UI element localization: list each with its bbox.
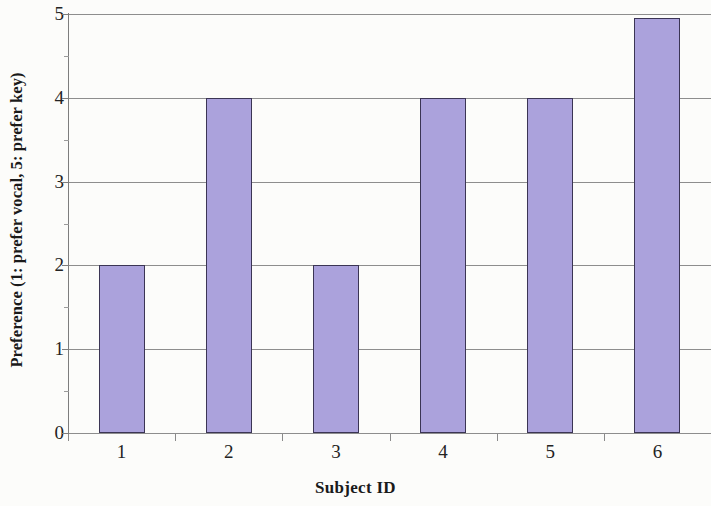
gridline-1 (68, 349, 711, 350)
y-axis-tick-mark (62, 265, 69, 266)
y-axis-tick-label: 4 (38, 87, 64, 109)
bar-subject-3 (313, 265, 359, 433)
gridline-4 (68, 98, 711, 99)
x-axis-tick-label: 6 (627, 441, 687, 463)
x-axis-tick-mark (497, 434, 498, 441)
gridline-2 (68, 265, 711, 266)
x-axis-tick-label: 2 (199, 441, 259, 463)
y-axis-tick-label: 2 (38, 254, 64, 276)
y-axis-tick-label: 5 (38, 3, 64, 25)
y-axis-tick-mark (62, 182, 69, 183)
y-axis-minor-tick-mark (64, 140, 69, 141)
x-axis-tick-label: 1 (92, 441, 152, 463)
y-axis-title: Preference (1: prefer vocal, 5: prefer k… (7, 72, 27, 367)
x-axis-tick-label: 3 (306, 441, 366, 463)
y-axis-tick-label: 3 (38, 171, 64, 193)
y-axis-tick-mark (62, 14, 69, 15)
bar-subject-4 (420, 98, 466, 433)
y-axis-tick-mark (62, 98, 69, 99)
gridline-3 (68, 182, 711, 183)
y-axis-title-container: Preference (1: prefer vocal, 5: prefer k… (0, 0, 34, 440)
x-axis-tick-mark (68, 434, 69, 441)
y-axis-tick-mark (62, 349, 69, 350)
y-axis-tick-label: 0 (38, 422, 64, 444)
y-axis-minor-tick-mark (64, 391, 69, 392)
bar-subject-5 (527, 98, 573, 433)
x-axis-tick-mark (282, 434, 283, 441)
x-axis-tick-label: 5 (520, 441, 580, 463)
y-axis-tick-labels: 012345 (34, 0, 64, 506)
y-axis-minor-tick-mark (64, 307, 69, 308)
x-axis-tick-mark (604, 434, 605, 441)
x-axis-tick-mark (175, 434, 176, 441)
bar-subject-1 (99, 265, 145, 433)
plot-area (68, 14, 711, 433)
x-axis-tick-label: 4 (413, 441, 473, 463)
bar-subject-2 (206, 98, 252, 433)
y-axis-minor-tick-mark (64, 224, 69, 225)
x-axis-title: Subject ID (0, 478, 711, 498)
y-axis-tick-label: 1 (38, 338, 64, 360)
bar-chart-figure: Preference (1: prefer vocal, 5: prefer k… (0, 0, 711, 506)
gridline-5 (68, 14, 711, 15)
x-axis-tick-mark (390, 434, 391, 441)
y-axis-minor-tick-mark (64, 56, 69, 57)
bar-subject-6 (634, 18, 680, 433)
